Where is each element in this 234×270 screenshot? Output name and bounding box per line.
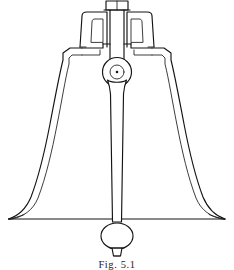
clapper-pivot-center-dot <box>116 71 119 74</box>
bell-line-drawing <box>0 0 234 270</box>
bell-inner-profile-left <box>10 55 83 220</box>
bell-shoulder-inner-left <box>82 50 100 55</box>
clapper-flight <box>112 248 122 256</box>
clapper-ball <box>101 223 133 249</box>
figure-caption: Fig. 5.1 <box>0 259 234 270</box>
canon-loop-right-inner <box>131 19 143 42</box>
bell-outer-profile-right <box>152 48 225 219</box>
figure-container: Fig. 5.1 <box>0 0 234 270</box>
canon-loop-left-inner <box>91 19 103 42</box>
bell-crown <box>80 1 154 47</box>
bell-outer-profile-left <box>9 48 83 219</box>
clapper-assembly <box>101 44 133 256</box>
bell-shoulder-inner-right <box>134 50 152 55</box>
bell-inner-profile-right <box>152 55 225 220</box>
